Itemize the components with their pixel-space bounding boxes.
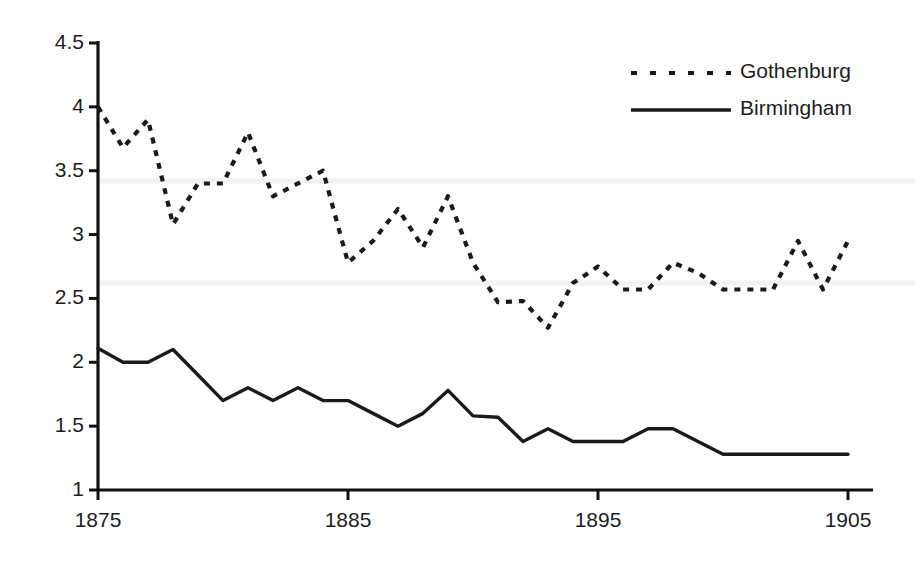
legend-swatches <box>631 73 731 110</box>
y-tick-label-4.5: 4.5 <box>55 30 84 54</box>
legend-label-birmingham: Birmingham <box>740 96 852 120</box>
y-tick-label-3.5: 3.5 <box>55 158 84 182</box>
y-tick-label-4: 4 <box>72 94 84 118</box>
x-tick-label-1895: 1895 <box>558 508 638 532</box>
legend-label-gothenburg: Gothenburg <box>740 59 851 83</box>
x-tick-label-1875: 1875 <box>58 508 138 532</box>
y-tick-label-2.5: 2.5 <box>55 285 84 309</box>
y-tick-label-3: 3 <box>72 222 84 246</box>
y-tick-label-2: 2 <box>72 349 84 373</box>
series-line-gothenburg <box>98 107 848 328</box>
line-chart-plot <box>0 0 915 563</box>
series-line-birmingham <box>98 348 848 454</box>
y-tick-label-1: 1 <box>72 477 84 501</box>
x-tick-label-1905: 1905 <box>808 508 888 532</box>
axis-ticks <box>89 43 848 500</box>
gridlines <box>98 181 915 283</box>
data-series <box>98 107 848 454</box>
chart-container: 11.522.533.544.5 1875188518951905 Gothen… <box>0 0 915 563</box>
y-tick-label-1.5: 1.5 <box>55 413 84 437</box>
x-tick-label-1885: 1885 <box>308 508 388 532</box>
